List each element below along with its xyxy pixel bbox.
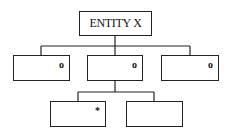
iteration-marker: * [95,105,100,116]
selection-marker: o [208,59,213,70]
child-box-3: o [161,55,219,81]
root-entity-label: ENTITY X [89,16,141,31]
selection-marker: o [59,59,64,70]
selection-marker: o [132,59,137,70]
child-box-2: o [87,55,143,81]
grandchild-box-1: * [50,101,106,127]
root-entity-box: ENTITY X [79,11,152,36]
grandchild-box-2 [126,101,183,127]
child-box-1: o [13,55,70,81]
